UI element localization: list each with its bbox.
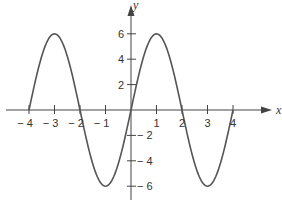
x-tick-label: − 2 [68, 117, 84, 129]
x-tick-label: 4 [230, 117, 236, 129]
y-tick-label: 4 [118, 53, 124, 65]
x-tick-label: 1 [153, 117, 159, 129]
y-tick-label: − 4 [137, 155, 153, 167]
y-tick-label: 2 [118, 79, 124, 91]
sine-chart: − 4− 3− 2− 11234642− 2− 4− 6xy [0, 0, 282, 200]
y-tick-label: − 2 [137, 129, 153, 141]
x-axis-label: x [275, 103, 282, 117]
labels-layer: − 4− 3− 2− 11234642− 2− 4− 6xy [17, 0, 282, 192]
y-tick-label: 6 [118, 28, 124, 40]
y-tick-label: − 6 [137, 180, 153, 192]
x-tick-label: − 3 [43, 117, 59, 129]
x-tick-label: 3 [204, 117, 210, 129]
axes [6, 5, 272, 200]
x-axis-arrow-icon [261, 107, 272, 114]
x-tick-label: − 4 [17, 117, 33, 129]
x-tick-label: − 1 [94, 117, 110, 129]
x-tick-label: 2 [179, 117, 185, 129]
y-axis-label: y [132, 0, 139, 12]
